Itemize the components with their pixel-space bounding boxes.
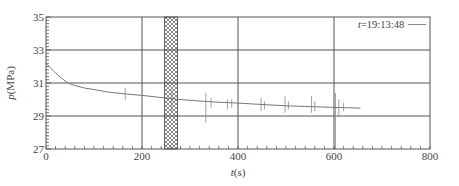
- x-tick-label: 800: [422, 150, 439, 162]
- y-tick-label: 35: [33, 11, 45, 23]
- tick-labels: 27293133350200400600800: [33, 11, 439, 162]
- x-tick-label: 600: [326, 150, 343, 162]
- legend-label: t=19:13:48: [358, 19, 404, 30]
- highlight-band: [165, 17, 178, 149]
- y-tick-label: 31: [33, 77, 44, 89]
- pressure-time-chart: 27293133350200400600800 t(s)p(MPa) t=19:…: [0, 0, 459, 186]
- crosshatch-band: [165, 17, 178, 149]
- legend: t=19:13:48: [358, 19, 426, 30]
- x-tick-label: 200: [134, 150, 151, 162]
- pressure-series: [46, 63, 360, 149]
- y-tick-label: 29: [33, 110, 45, 122]
- y-axis-title: p(MPa): [4, 66, 17, 101]
- x-axis-title: t(s): [231, 166, 246, 179]
- series-line: [46, 63, 360, 108]
- x-tick-label: 0: [43, 150, 49, 162]
- y-tick-label: 33: [33, 44, 45, 56]
- grid-lines: [46, 17, 430, 149]
- x-tick-label: 400: [230, 150, 247, 162]
